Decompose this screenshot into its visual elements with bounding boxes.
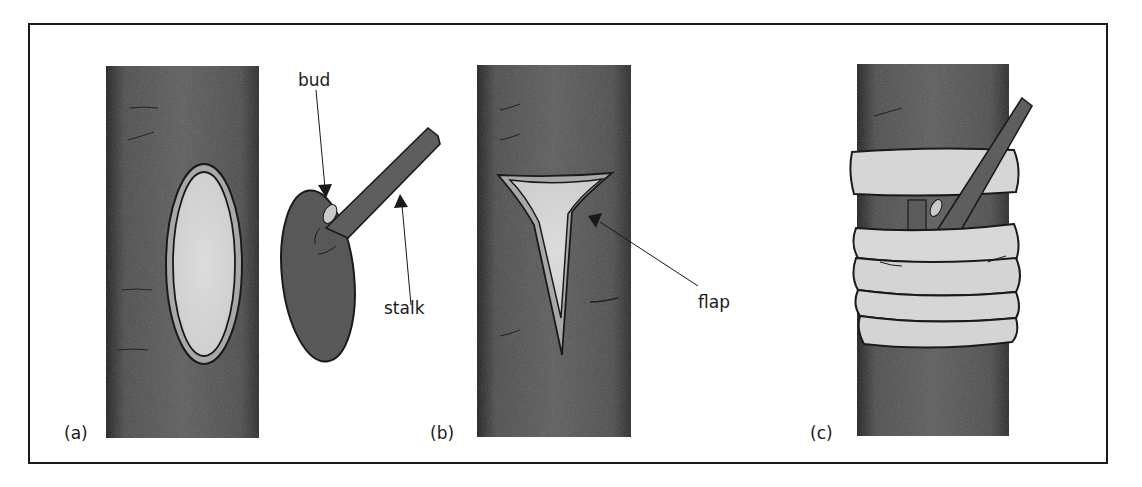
panel-label-c: (c): [810, 425, 833, 442]
panel-label-a: (a): [64, 425, 88, 442]
label-stalk: stalk: [384, 300, 425, 317]
grafting-illustration: [0, 0, 1142, 487]
label-bud: bud: [298, 72, 330, 89]
panel-label-b: (b): [430, 425, 454, 442]
stalk-arrow: [394, 194, 411, 305]
bud-arrow: [316, 90, 332, 198]
panel-a-stem: [106, 66, 259, 438]
bud-shield-with-stalk: [273, 128, 440, 365]
label-flap: flap: [698, 294, 730, 311]
panel-b-stem: [477, 65, 631, 437]
panel-c-stem: [850, 64, 1032, 436]
